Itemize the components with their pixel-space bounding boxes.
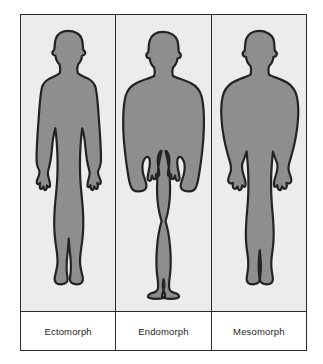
label-ectomorph: Ectomorph [45, 326, 92, 337]
label-endomorph: Endomorph [138, 326, 188, 337]
silhouette-panels-row [21, 15, 306, 311]
somatotype-diagram: Ectomorph Endomorph Mesomorph [20, 14, 307, 351]
endomorph-silhouette [116, 15, 210, 311]
panel-ectomorph [21, 15, 115, 311]
mesomorph-silhouette [212, 15, 306, 311]
label-cell-mesomorph: Mesomorph [211, 312, 306, 350]
label-cell-endomorph: Endomorph [115, 312, 210, 350]
label-mesomorph: Mesomorph [233, 326, 285, 337]
label-cell-ectomorph: Ectomorph [21, 312, 115, 350]
labels-row: Ectomorph Endomorph Mesomorph [21, 311, 306, 350]
panel-mesomorph [211, 15, 306, 311]
ectomorph-silhouette [21, 15, 115, 311]
panel-endomorph [115, 15, 210, 311]
